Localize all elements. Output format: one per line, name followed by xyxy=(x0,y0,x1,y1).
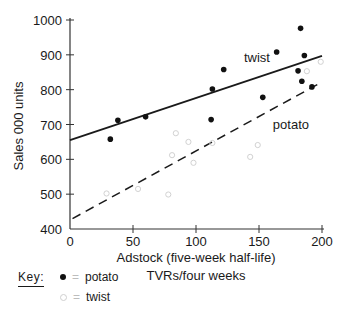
filled-circle-icon xyxy=(60,274,66,280)
series-label-twist: twist xyxy=(244,50,270,65)
legend-row-potato: Key: = potato xyxy=(18,267,118,287)
point-twist xyxy=(248,154,253,159)
legend-equals: = xyxy=(72,267,79,287)
y-tick-label: 800 xyxy=(40,83,62,98)
point-twist xyxy=(304,69,309,74)
point-twist xyxy=(169,153,174,158)
x-tick-label: 200 xyxy=(311,234,333,249)
y-axis-title: Sales 000 units xyxy=(11,81,26,170)
series-label-potato: potato xyxy=(273,117,309,132)
x-axis-subtitle: TVRs/four weeks xyxy=(147,268,246,283)
legend-row-twist: = twist xyxy=(18,287,118,307)
point-potato xyxy=(208,117,214,123)
y-tick-label: 1000 xyxy=(33,13,62,28)
point-potato xyxy=(274,49,280,55)
fit-lines xyxy=(70,56,322,219)
x-tick-label: 150 xyxy=(248,234,270,249)
point-twist xyxy=(318,59,323,64)
y-tick-label: 900 xyxy=(40,48,62,63)
point-potato xyxy=(143,114,149,120)
x-tick-label: 0 xyxy=(66,234,73,249)
point-potato xyxy=(260,95,266,101)
point-twist xyxy=(191,160,196,165)
point-potato xyxy=(221,67,227,73)
point-potato xyxy=(295,68,301,74)
point-twist xyxy=(186,139,191,144)
x-tick-label: 100 xyxy=(185,234,207,249)
point-twist xyxy=(173,131,178,136)
point-potato xyxy=(298,26,304,32)
legend-equals: = xyxy=(73,287,80,307)
point-twist xyxy=(166,192,171,197)
legend-label-potato: potato xyxy=(85,267,118,287)
x-axis-title: Adstock (five-week half-life) xyxy=(117,250,276,265)
hollow-circle-icon xyxy=(60,294,67,301)
legend: Key: = potato = twist xyxy=(18,267,118,307)
series-labels: twistpotato xyxy=(244,50,309,133)
legend-key-label: Key: xyxy=(18,267,60,287)
point-potato xyxy=(210,86,216,92)
fit-line-potato xyxy=(73,82,322,219)
point-twist xyxy=(135,186,140,191)
point-potato xyxy=(302,53,308,59)
y-tick-label: 600 xyxy=(40,152,62,167)
point-potato xyxy=(115,118,121,124)
legend-label-twist: twist xyxy=(86,287,110,307)
point-potato xyxy=(299,79,305,85)
y-tick-label: 700 xyxy=(40,118,62,133)
point-twist xyxy=(104,191,109,196)
point-potato xyxy=(108,136,114,142)
point-potato xyxy=(309,84,315,90)
x-tick-label: 50 xyxy=(126,234,140,249)
point-twist xyxy=(255,142,260,147)
data-points xyxy=(104,26,323,198)
y-tick-label: 400 xyxy=(40,222,62,237)
y-tick-label: 500 xyxy=(40,187,62,202)
